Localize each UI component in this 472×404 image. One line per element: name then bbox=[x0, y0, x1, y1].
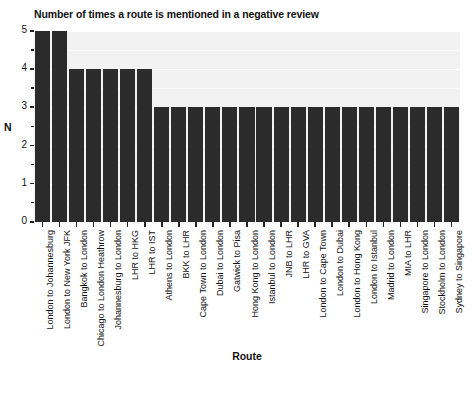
x-tick-label-text: LHR to GVA bbox=[302, 230, 311, 279]
x-tick-label-text: LHR to HKG bbox=[131, 230, 140, 280]
x-tick-label: Chicago to London Heathrow bbox=[97, 230, 106, 347]
bar-chart-figure: Number of times a route is mentioned in … bbox=[0, 0, 472, 404]
x-tick-mark bbox=[366, 222, 368, 227]
x-tick-label: Istanbul to London bbox=[268, 230, 277, 304]
x-tick-label-text: MIA to LHR bbox=[404, 230, 413, 276]
x-tick-label-text: JNB to LHR bbox=[285, 230, 294, 278]
x-tick-mark bbox=[434, 222, 436, 227]
x-tick-label-text: London to Dubai bbox=[336, 230, 345, 296]
x-tick-label-text: London to Cape Town bbox=[319, 230, 328, 317]
x-tick-label-text: Johannesburg to London bbox=[114, 230, 123, 330]
y-tick-label: 4 bbox=[21, 62, 27, 73]
x-tick-label-text: Sydney to Singapore bbox=[455, 230, 464, 314]
x-tick-mark bbox=[178, 222, 180, 227]
y-axis: 012345 bbox=[0, 31, 34, 222]
bars-group bbox=[34, 31, 460, 222]
x-tick-label: Stockholm to London bbox=[438, 230, 447, 315]
x-tick-mark bbox=[127, 222, 129, 227]
x-tick-label-text: London to Istanbul bbox=[370, 230, 379, 304]
x-tick-label: Dubai to London bbox=[216, 230, 225, 296]
x-tick-label: London to Istanbul bbox=[370, 230, 379, 304]
x-tick-mark bbox=[417, 222, 419, 227]
y-tick-label: 0 bbox=[21, 215, 27, 226]
x-tick-label-text: London to Hong Kong bbox=[353, 230, 362, 318]
x-tick-label: Bangkok to London bbox=[80, 230, 89, 308]
x-tick-mark bbox=[246, 222, 248, 227]
x-tick-mark bbox=[348, 222, 350, 227]
x-tick-label: LHR to GVA bbox=[302, 230, 311, 279]
bar bbox=[376, 107, 391, 222]
bar bbox=[308, 107, 323, 222]
bar bbox=[359, 107, 374, 222]
bar bbox=[393, 107, 408, 222]
x-tick-label: Gatwick to Pisa bbox=[233, 230, 242, 292]
x-tick-mark bbox=[400, 222, 402, 227]
bar bbox=[86, 69, 101, 222]
x-tick-mark bbox=[161, 222, 163, 227]
bar bbox=[188, 107, 203, 222]
x-tick-label: London to New York JFK bbox=[63, 230, 72, 329]
x-tick-label-text: LHR to IST bbox=[148, 230, 157, 275]
x-tick-label: BKK to LHR bbox=[182, 230, 191, 279]
bar bbox=[205, 107, 220, 222]
bar bbox=[120, 69, 135, 222]
x-tick-label: Johannesburg to London bbox=[114, 230, 123, 330]
x-tick-label: Cape Town to London bbox=[199, 230, 208, 317]
x-tick-label: LHR to IST bbox=[148, 230, 157, 275]
x-tick-mark bbox=[42, 222, 44, 227]
x-tick-label: London to Dubai bbox=[336, 230, 345, 296]
x-tick-mark bbox=[110, 222, 112, 227]
x-tick-mark bbox=[297, 222, 299, 227]
x-tick-label: MIA to LHR bbox=[404, 230, 413, 276]
bar bbox=[171, 107, 186, 222]
x-tick-mark bbox=[195, 222, 197, 227]
bar bbox=[239, 107, 254, 222]
x-tick-label-text: Singapore to London bbox=[421, 230, 430, 314]
bar bbox=[410, 107, 425, 222]
bar bbox=[69, 69, 84, 222]
bar bbox=[444, 107, 459, 222]
x-tick-mark bbox=[59, 222, 61, 227]
x-tick-label: Madrid to London bbox=[387, 230, 396, 300]
x-tick-label: Athens to London bbox=[165, 230, 174, 301]
x-tick-label: London to Cape Town bbox=[319, 230, 328, 317]
bar bbox=[325, 107, 340, 222]
x-tick-mark bbox=[331, 222, 333, 227]
x-tick-mark bbox=[144, 222, 146, 227]
bar bbox=[342, 107, 357, 222]
bar bbox=[52, 31, 67, 222]
x-tick-mark bbox=[212, 222, 214, 227]
x-tick-mark bbox=[383, 222, 385, 227]
x-tick-label-text: BKK to LHR bbox=[182, 230, 191, 279]
chart-title: Number of times a route is mentioned in … bbox=[34, 8, 464, 20]
x-tick-label: JNB to LHR bbox=[285, 230, 294, 278]
bar bbox=[154, 107, 169, 222]
x-tick-mark bbox=[451, 222, 453, 227]
x-tick-label-text: Istanbul to London bbox=[268, 230, 277, 304]
x-tick-mark bbox=[93, 222, 95, 227]
x-tick-label: Hong Kong to London bbox=[251, 230, 260, 318]
x-axis-tick-labels: London to JohannesburgLondon to New York… bbox=[34, 230, 460, 348]
x-tick-label-text: Gatwick to Pisa bbox=[233, 230, 242, 292]
x-tick-mark bbox=[76, 222, 78, 227]
x-tick-label: Sydney to Singapore bbox=[455, 230, 464, 314]
x-tick-mark bbox=[314, 222, 316, 227]
bar bbox=[427, 107, 442, 222]
x-tick-mark bbox=[280, 222, 282, 227]
x-tick-label-text: Hong Kong to London bbox=[251, 230, 260, 318]
plot-area bbox=[34, 31, 460, 222]
bar bbox=[291, 107, 306, 222]
x-tick-label: LHR to HKG bbox=[131, 230, 140, 280]
bar bbox=[35, 31, 50, 222]
x-tick-label-text: London to New York JFK bbox=[63, 230, 72, 329]
y-tick-label: 1 bbox=[21, 177, 27, 188]
x-tick-label: Singapore to London bbox=[421, 230, 430, 314]
x-tick-label: London to Hong Kong bbox=[353, 230, 362, 318]
y-tick-label: 3 bbox=[21, 100, 27, 111]
x-tick-label-text: Cape Town to London bbox=[199, 230, 208, 317]
x-tick-label-text: Stockholm to London bbox=[438, 230, 447, 315]
x-tick-mark bbox=[229, 222, 231, 227]
x-tick-label-text: Dubai to London bbox=[216, 230, 225, 296]
y-tick-label: 2 bbox=[21, 139, 27, 150]
x-tick-label-text: Chicago to London Heathrow bbox=[97, 230, 106, 347]
